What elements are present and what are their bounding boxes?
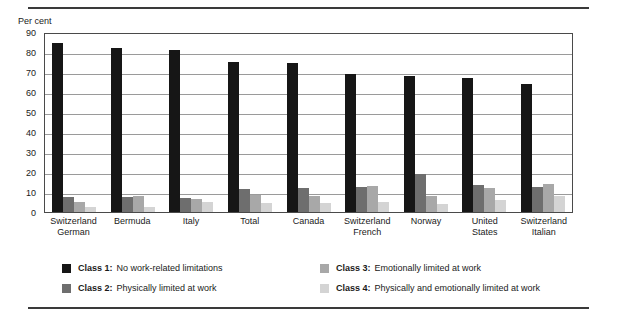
bar-group — [455, 34, 514, 212]
x-axis-tick-label-line2: Italian — [514, 227, 573, 238]
legend-item-description: Emotionally limited at work — [375, 263, 482, 273]
bar-class-2 — [63, 197, 74, 212]
x-axis-tick-label-line2: States — [455, 227, 514, 238]
bar-class-4 — [85, 207, 96, 212]
bar-class-3 — [484, 188, 495, 212]
x-axis-tick-label: SwitzerlandItalian — [514, 216, 573, 238]
bar-class-3 — [133, 196, 144, 212]
bar-class-2 — [298, 188, 309, 212]
x-axis-tick-label-line1: Canada — [279, 216, 338, 227]
bar-class-4 — [202, 202, 213, 212]
bar-class-3 — [74, 202, 85, 212]
x-axis-tick-label-line1: Switzerland — [338, 216, 397, 227]
y-axis-tick-label: 20 — [26, 169, 36, 178]
x-axis-tick-label-line1: Switzerland — [514, 216, 573, 227]
legend-item-description: No work-related limitations — [117, 263, 223, 273]
bar-class-3 — [250, 195, 261, 212]
x-axis-tick-label: Canada — [279, 216, 338, 238]
bar-class-2 — [415, 174, 426, 212]
x-axis-tick-label-line1: Italy — [162, 216, 221, 227]
y-axis-tick-label: 60 — [26, 89, 36, 98]
bar-class-4 — [495, 200, 506, 212]
bar-class-4 — [144, 207, 155, 212]
y-axis-tick-label: 40 — [26, 129, 36, 138]
bar-class-3 — [367, 186, 378, 212]
x-axis-tick-labels: SwitzerlandGermanBermudaItalyTotalCanada… — [44, 216, 573, 238]
bar-group — [162, 34, 221, 212]
class-4-swatch — [320, 284, 329, 293]
y-axis-tick-label: 90 — [26, 29, 36, 38]
bar-class-3 — [191, 199, 202, 212]
bar-class-1 — [287, 63, 298, 212]
legend-item: Class 3:Emotionally limited at work — [320, 263, 578, 273]
legend-item-description: Physically and emotionally limited at wo… — [375, 283, 541, 293]
bottom-divider-rule — [28, 307, 589, 309]
x-axis-tick-label: Total — [220, 216, 279, 238]
y-axis-title: Per cent — [18, 16, 52, 26]
x-axis-tick-label: Italy — [162, 216, 221, 238]
bar-class-2 — [356, 187, 367, 212]
class-2-swatch — [62, 284, 71, 293]
x-axis-tick-label-line1: Bermuda — [103, 216, 162, 227]
bar-groups — [45, 34, 572, 212]
legend-item-key: Class 3: — [336, 263, 371, 273]
x-axis-tick-label-line1: Norway — [397, 216, 456, 227]
class-1-swatch — [62, 264, 71, 273]
bar-class-2 — [180, 198, 191, 212]
bar-group — [514, 34, 573, 212]
y-axis-tick-label: 50 — [26, 109, 36, 118]
bar-class-3 — [426, 196, 437, 212]
bar-class-2 — [239, 189, 250, 212]
legend-item: Class 1:No work-related limitations — [62, 263, 320, 273]
y-axis-tick-label: 10 — [26, 189, 36, 198]
bar-class-2 — [122, 197, 133, 212]
bar-group — [396, 34, 455, 212]
x-axis-tick-label: SwitzerlandFrench — [338, 216, 397, 238]
y-axis-tick-labels: 9080706050403020100 — [0, 33, 40, 213]
y-axis-tick-label: 30 — [26, 149, 36, 158]
bar-group — [338, 34, 397, 212]
x-axis-tick-label-line1: United — [455, 216, 514, 227]
bar-class-3 — [309, 196, 320, 212]
x-axis-tick-label: Bermuda — [103, 216, 162, 238]
chart-figure: Per cent 9080706050403020100 Switzerland… — [0, 0, 617, 321]
x-axis-tick-label: SwitzerlandGerman — [44, 216, 103, 238]
legend-item-description: Physically limited at work — [117, 283, 217, 293]
bar-class-2 — [532, 187, 543, 212]
y-axis-tick-label: 0 — [31, 209, 36, 218]
bar-class-4 — [554, 196, 565, 212]
bar-class-1 — [345, 74, 356, 212]
bar-group — [221, 34, 280, 212]
top-divider-rule — [28, 7, 589, 9]
x-axis-tick-label-line2: French — [338, 227, 397, 238]
bar-group — [279, 34, 338, 212]
bar-class-1 — [404, 76, 415, 212]
bar-class-4 — [378, 202, 389, 212]
legend-item: Class 2:Physically limited at work — [62, 283, 320, 293]
bar-class-1 — [111, 48, 122, 212]
x-axis-tick-label-line1: Switzerland — [44, 216, 103, 227]
x-axis-tick-label-line2: German — [44, 227, 103, 238]
bar-group — [45, 34, 104, 212]
x-axis-tick-label-line1: Total — [220, 216, 279, 227]
y-axis-tick-label: 70 — [26, 69, 36, 78]
bar-class-3 — [543, 184, 554, 212]
bar-class-1 — [169, 50, 180, 212]
bar-class-1 — [52, 43, 63, 212]
bar-group — [104, 34, 163, 212]
class-3-swatch — [320, 264, 329, 273]
legend-item: Class 4:Physically and emotionally limit… — [320, 283, 578, 293]
x-axis-tick-label: Norway — [397, 216, 456, 238]
legend-item-key: Class 4: — [336, 283, 371, 293]
legend-item-key: Class 1: — [78, 263, 113, 273]
legend-item-key: Class 2: — [78, 283, 113, 293]
chart-legend: Class 1:No work-related limitationsClass… — [62, 258, 582, 298]
bar-class-2 — [473, 185, 484, 212]
y-axis-tick-label: 80 — [26, 49, 36, 58]
plot-area — [44, 33, 573, 213]
bar-class-1 — [521, 84, 532, 212]
bar-class-4 — [437, 204, 448, 212]
bar-class-4 — [261, 203, 272, 212]
x-axis-tick-label: UnitedStates — [455, 216, 514, 238]
bar-class-1 — [462, 78, 473, 212]
